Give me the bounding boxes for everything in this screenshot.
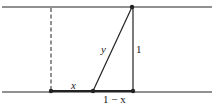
label-height-1: 1 [136, 43, 142, 55]
label-remainder: 1 − x [103, 93, 126, 105]
point-top [130, 5, 134, 9]
point-mid-bottom [91, 89, 95, 93]
hypotenuse-y [93, 7, 132, 91]
point-left-bottom [49, 89, 53, 93]
diagram-canvas: x y 1 1 − x [0, 0, 217, 105]
point-right-bottom [131, 89, 135, 93]
label-x: x [70, 79, 76, 91]
label-y: y [100, 43, 106, 55]
